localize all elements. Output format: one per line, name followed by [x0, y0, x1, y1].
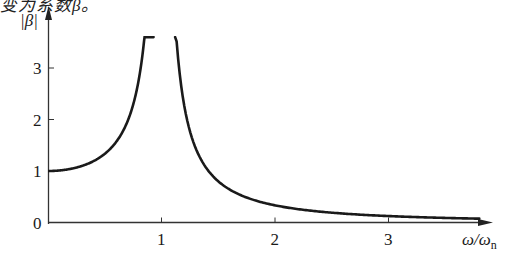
y-axis-label: |β|: [20, 11, 38, 30]
y-tick-label: 1: [33, 162, 42, 181]
curve-below-resonance: [48, 37, 154, 171]
y-tick-label: 3: [33, 59, 42, 78]
x-axis-arrow-icon: [478, 219, 493, 226]
x-axis-label-subscript: n: [491, 238, 497, 252]
y-axis-arrow-icon: [45, 6, 52, 20]
y-tick-label: 0: [33, 214, 42, 233]
x-tick-label: 2: [271, 230, 280, 249]
curve-above-resonance: [175, 37, 479, 219]
y-tick-label: 2: [33, 111, 42, 130]
x-axis-label: ω/ωn: [462, 230, 497, 252]
x-tick-label: 3: [384, 230, 393, 249]
resonance-curve-chart: 0123 123 |β| ω/ωn: [0, 0, 517, 265]
y-ticks: 0123: [33, 59, 54, 233]
x-axis-label-main: ω/ω: [462, 230, 491, 249]
x-tick-label: 1: [157, 230, 166, 249]
